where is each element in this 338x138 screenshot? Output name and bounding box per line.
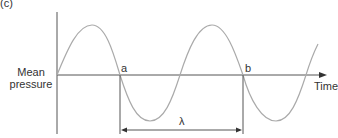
- x-axis-arrowhead-icon: [319, 72, 327, 78]
- y-axis-label-line2: pressure: [6, 78, 56, 90]
- y-axis-label: Mean pressure: [6, 66, 56, 90]
- wavelength-arrowhead-right-icon: [236, 128, 242, 133]
- point-a-label: a: [121, 63, 127, 74]
- y-axis-label-line1: Mean: [6, 66, 56, 78]
- x-axis-label: Time: [314, 81, 338, 92]
- wavelength-arrowhead-left-icon: [121, 128, 127, 133]
- panel-label: (c): [0, 0, 13, 9]
- pressure-wave: [57, 25, 318, 121]
- point-b-label: b: [245, 63, 251, 74]
- wavelength-label: λ: [179, 116, 185, 127]
